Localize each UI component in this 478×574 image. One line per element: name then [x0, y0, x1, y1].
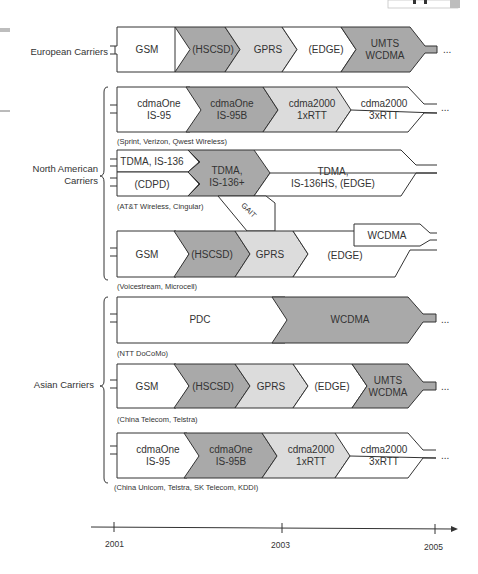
row-na-gsm: GSM (HSCSD) GPRS (EDGE) WCDMA (Voicestre… — [110, 224, 437, 291]
page-corner-tab — [388, 0, 460, 8]
segment-gsm: GSM — [136, 381, 159, 392]
segment-pdc: PDC — [189, 314, 210, 325]
segment-tdma-plus-2: IS-136+ — [209, 177, 244, 188]
segment-umts: UMTS — [371, 38, 400, 49]
segment-edge: (EDGE) — [309, 44, 344, 55]
segment-is95b: IS-95B — [216, 456, 247, 467]
segment-edge: (EDGE) — [315, 381, 350, 392]
group-label-north-american-1: North American — [33, 163, 98, 174]
continues-ellipsis: ... — [441, 381, 449, 392]
segment-1xrtt: 1xRTT — [296, 456, 326, 467]
group-label-north-american-2: Carriers — [64, 175, 98, 186]
segment-tdma-hs-1: TDMA, — [317, 166, 348, 177]
row-na-tdma: TDMA, IS-136 (CDPD) TDMA, IS-136+ TDMA, … — [110, 150, 437, 231]
segment-3xrtt: 3xRTT — [369, 456, 399, 467]
tick-label-2003: 2003 — [271, 540, 290, 550]
segment-hscsd: (HSCSD) — [191, 249, 233, 260]
tick-label-2005: 2005 — [424, 542, 443, 552]
segment-wcdma: WCDMA — [366, 50, 405, 61]
segment-gsm: GSM — [136, 249, 159, 260]
continues-ellipsis: ... — [441, 450, 449, 461]
row-na-cdma: cdmaOne IS-95 cdmaOne IS-95B cdma2000 1x… — [110, 87, 449, 146]
segment-umts: UMTS — [374, 375, 403, 386]
margin-mark — [0, 28, 10, 32]
carrier-list: (China Unicom, Telstra, SK Telecom, KDDI… — [114, 483, 259, 492]
segment-hscsd: (HSCSD) — [192, 381, 234, 392]
row-asia-gsm: GSM (HSCSD) GPRS (EDGE) UMTS WCDMA ... (… — [110, 364, 449, 424]
tick-label-2001: 2001 — [105, 539, 124, 549]
segment-tdma-plus-1: TDMA, — [211, 165, 242, 176]
carrier-list: (NTT DoCoMo) — [117, 349, 169, 358]
segment-1xrtt: 1xRTT — [297, 110, 327, 121]
segment-gsm: GSM — [136, 44, 159, 55]
row-asia-cdma: cdmaOne IS-95 cdmaOne IS-95B cdma2000 1x… — [110, 433, 449, 492]
carrier-list: (Voicestream, Microcell) — [117, 282, 198, 291]
segment-cdpd: (CDPD) — [135, 179, 170, 190]
segment-wcdma: WCDMA — [331, 314, 370, 325]
carrier-list: (Sprint, Verizon, Qwest Wireless) — [117, 137, 228, 146]
row-asia-pdc: PDC WCDMA ... (NTT DoCoMo) — [110, 297, 449, 358]
segment-is95b: IS-95B — [217, 110, 248, 121]
carrier-list: (AT&T Wireless, Cingular) — [117, 202, 204, 211]
carrier-list: (China Telecom, Telstra) — [117, 415, 198, 424]
segment-3xrtt: 3xRTT — [369, 110, 399, 121]
segment-tdma-hs-2: IS-136HS, (EDGE) — [291, 178, 375, 189]
continues-ellipsis: ... — [441, 102, 449, 113]
segment-cdmaone-b: cdmaOne — [209, 444, 253, 455]
continues-ellipsis: ... — [443, 44, 451, 55]
segment-cdma2000-1x: cdma2000 — [288, 444, 335, 455]
group-label-european: European Carriers — [30, 46, 108, 57]
segment-edge: (EDGE) — [328, 250, 363, 261]
arrow-right-icon — [451, 526, 458, 532]
segment-wcdma: WCDMA — [368, 230, 407, 241]
segment-cdmaone: cdmaOne — [136, 444, 180, 455]
segment-hscsd: (HSCSD) — [192, 44, 234, 55]
continues-ellipsis: ... — [441, 314, 449, 325]
migration-diagram: European Carriers North American Carrier… — [0, 0, 478, 574]
segment-gprs: GPRS — [254, 44, 283, 55]
brace-north-american — [100, 87, 108, 280]
segment-cdmaone: cdmaOne — [137, 98, 181, 109]
segment-cdma2000-3x: cdma2000 — [361, 98, 408, 109]
segment-is95: IS-95 — [147, 110, 171, 121]
row-european: GSM (HSCSD) GPRS (EDGE) UMTS WCDMA ... — [110, 27, 451, 72]
timeline-axis: 2001 2003 2005 — [91, 522, 458, 552]
segment-cdma2000-1x: cdma2000 — [289, 98, 336, 109]
segment-tdma-is136: TDMA, IS-136 — [120, 156, 184, 167]
segment-gprs: GPRS — [257, 381, 286, 392]
brace-asian — [100, 297, 108, 483]
segment-gprs: GPRS — [256, 249, 285, 260]
segment-cdma2000-3x: cdma2000 — [361, 444, 408, 455]
segment-is95: IS-95 — [146, 456, 170, 467]
segment-cdmaone-b: cdmaOne — [210, 98, 254, 109]
group-label-asian: Asian Carriers — [34, 379, 94, 390]
segment-wcdma: WCDMA — [369, 387, 408, 398]
